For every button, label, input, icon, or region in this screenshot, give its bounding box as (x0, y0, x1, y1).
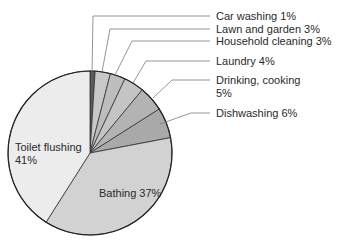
leader-dishwashing (160, 113, 210, 124)
label-bathing: Bathing 37% (99, 187, 162, 199)
label-drinking-cooking-pct: 5% (216, 87, 232, 99)
label-toilet-flushing-pct: 41% (15, 154, 37, 166)
label-household-cleaning: Household cleaning 3% (216, 35, 332, 47)
pie-slices (8, 71, 172, 235)
leader-lawn-garden (102, 29, 210, 72)
leader-car-washing (92, 16, 210, 73)
leader-drinking-cooking (153, 80, 210, 98)
leader-household-cleaning (115, 41, 210, 75)
pie-chart: Car washing 1% Lawn and garden 3% Househ… (0, 0, 340, 250)
label-lawn-garden: Lawn and garden 3% (216, 23, 320, 35)
label-toilet-flushing: Toilet flushing (15, 141, 82, 153)
label-car-washing: Car washing 1% (216, 10, 296, 22)
label-laundry: Laundry 4% (216, 55, 275, 67)
label-drinking-cooking: Drinking, cooking (216, 74, 300, 86)
label-dishwashing: Dishwashing 6% (216, 107, 298, 119)
